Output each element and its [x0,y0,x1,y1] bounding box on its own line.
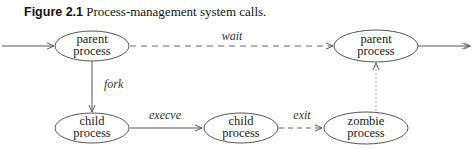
node-parent-process-end: parent process [334,30,418,62]
svg-text:process: process [73,126,111,140]
edge-label-exit: exit [293,108,311,122]
edge-fork: fork [92,61,124,112]
edge-label-fork: fork [104,77,124,91]
svg-text:process: process [357,44,395,58]
svg-text:process: process [347,126,385,140]
svg-text:process: process [73,44,111,58]
edge-label-execve: execve [149,108,182,122]
node-parent-process-start: parent process [55,31,129,61]
edge-wait: wait [130,29,333,46]
edge-label-wait: wait [222,29,243,43]
edge-exit: exit [279,108,322,128]
svg-text:process: process [222,126,260,140]
process-diagram: wait fork execve exit parent process chi… [0,0,475,149]
edge-execve: execve [130,108,202,128]
node-child-process-forked: child process [55,113,129,143]
node-child-process-exec: child process [204,113,278,143]
node-zombie-process: zombie process [324,112,408,144]
